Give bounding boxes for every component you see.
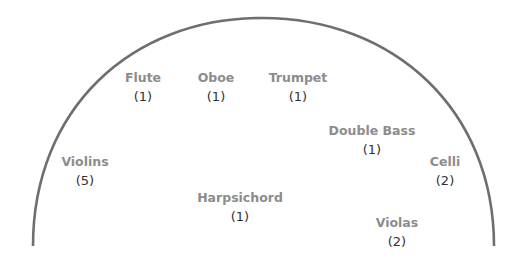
orchestra-seating-diagram: Flute (1) Oboe (1) Trumpet (1) Double Ba… (0, 0, 518, 265)
section-label: Violas (376, 213, 419, 232)
section-count: (2) (376, 232, 419, 251)
section-trumpet: Trumpet (1) (269, 68, 328, 106)
section-harpsichord: Harpsichord (1) (197, 188, 283, 226)
section-flute: Flute (1) (125, 68, 161, 106)
section-count: (1) (125, 87, 161, 106)
section-label: Flute (125, 68, 161, 87)
section-label: Celli (430, 152, 461, 171)
section-label: Oboe (198, 68, 235, 87)
section-label: Double Bass (329, 121, 416, 140)
section-celli: Celli (2) (430, 152, 461, 190)
section-label: Harpsichord (197, 188, 283, 207)
section-label: Violins (61, 152, 108, 171)
section-double-bass: Double Bass (1) (329, 121, 416, 159)
section-violins: Violins (5) (61, 152, 108, 190)
section-violas: Violas (2) (376, 213, 419, 251)
section-count: (5) (61, 171, 108, 190)
section-count: (1) (269, 87, 328, 106)
section-count: (1) (329, 140, 416, 159)
section-count: (1) (198, 87, 235, 106)
section-oboe: Oboe (1) (198, 68, 235, 106)
section-label: Trumpet (269, 68, 328, 87)
section-count: (2) (430, 171, 461, 190)
section-count: (1) (197, 207, 283, 226)
